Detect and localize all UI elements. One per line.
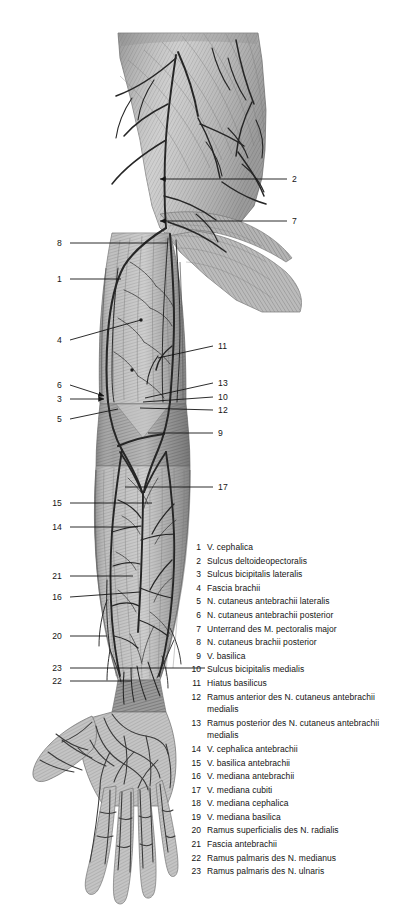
leader-label-16: 16 (52, 593, 62, 602)
legend-item-number: 9 (186, 650, 201, 663)
leader-label-21: 21 (52, 572, 62, 581)
legend-item-text: Fascia brachii (207, 582, 260, 595)
legend-item: 3Sulcus bicipitalis lateralis (186, 568, 396, 581)
legend-item-number: 14 (186, 743, 201, 756)
legend-item-number: 20 (186, 824, 201, 837)
legend-item: 8N. cutaneus brachii posterior (186, 636, 396, 649)
legend-item-text: V. basilica (207, 650, 246, 663)
legend-item: 23Ramus palmaris des N. ulnaris (186, 865, 396, 878)
leader-label-3: 3 (57, 395, 62, 404)
leader-label-20: 20 (52, 632, 62, 641)
legend-item-text: V. mediana cubiti (207, 784, 272, 797)
legend-item-text: Ramus palmaris des N. ulnaris (207, 865, 324, 878)
leader-label-7: 7 (292, 217, 297, 226)
legend-item-text: V. mediana antebrachii (207, 770, 294, 783)
legend-item-number: 16 (186, 770, 201, 783)
legend-item-text: N. cutaneus antebrachii posterior (207, 609, 333, 622)
legend-item: 9V. basilica (186, 650, 396, 663)
legend-item-number: 11 (186, 677, 201, 690)
legend-item-text: Ramus anterior des N. cutaneus antebrach… (207, 691, 396, 716)
leader-line-6 (70, 385, 104, 396)
legend-item-number: 18 (186, 797, 201, 810)
legend-item: 10Sulcus bicipitalis medialis (186, 663, 396, 676)
legend-item: 7Unterrand des M. pectoralis major (186, 623, 396, 636)
legend-item: 14V. cephalica antebrachii (186, 743, 396, 756)
leader-label-11: 11 (218, 342, 227, 351)
legend-item-text: Ramus palmaris des N. medianus (207, 852, 336, 865)
legend-item-number: 19 (186, 811, 201, 824)
legend-item-text: Ramus posterior des N. cutaneus antebrac… (207, 717, 396, 742)
leader-label-17: 17 (218, 483, 228, 492)
legend-item: 1V. cephalica (186, 541, 396, 554)
legend-item-text: Sulcus bicipitalis lateralis (207, 568, 302, 581)
legend-item-text: Fascia antebrachii (207, 838, 277, 851)
leader-label-14: 14 (52, 523, 62, 532)
leader-label-22: 22 (52, 677, 62, 686)
legend-item-number: 1 (186, 541, 201, 554)
legend-item: 20Ramus superficialis des N. radialis (186, 824, 396, 837)
legend-item-text: Ramus superficialis des N. radialis (207, 824, 339, 837)
legend-item-number: 2 (186, 555, 201, 568)
leader-label-4: 4 (57, 336, 62, 345)
legend-item-number: 22 (186, 852, 201, 865)
legend-item-text: Unterrand des M. pectoralis major (207, 623, 337, 636)
legend-item-number: 3 (186, 568, 201, 581)
legend-item-text: V. cephalica antebrachii (207, 743, 298, 756)
legend-item-text: N. cutaneus antebrachii lateralis (207, 595, 330, 608)
leader-label-12: 12 (218, 406, 228, 415)
legend-item: 12Ramus anterior des N. cutaneus antebra… (186, 691, 396, 716)
legend-item: 21Fascia antebrachii (186, 838, 396, 851)
leader-label-2: 2 (292, 175, 297, 184)
legend-item-text: Sulcus bicipitalis medialis (207, 663, 304, 676)
leader-label-10: 10 (218, 393, 228, 402)
leader-label-8: 8 (57, 239, 62, 248)
legend-item-number: 10 (186, 663, 201, 676)
legend-item: 11Hiatus basilicus (186, 677, 396, 690)
legend-item: 2Sulcus deltoideopectoralis (186, 555, 396, 568)
leader-label-1: 1 (57, 275, 62, 284)
legend-item: 6N. cutaneus antebrachii posterior (186, 609, 396, 622)
legend-item: 15V. basilica antebrachii (186, 757, 396, 770)
legend-item: 17V. mediana cubiti (186, 784, 396, 797)
legend-item: 5N. cutaneus antebrachii lateralis (186, 595, 396, 608)
leader-label-23: 23 (52, 664, 62, 673)
legend-item-number: 8 (186, 636, 201, 649)
legend-item-text: V. cephalica (207, 541, 253, 554)
legend-item-text: V. mediana basilica (207, 811, 281, 824)
legend-item-text: Sulcus deltoideopectoralis (207, 555, 307, 568)
legend-item: 22Ramus palmaris des N. medianus (186, 852, 396, 865)
leader-label-6: 6 (57, 381, 62, 390)
legend-item-number: 7 (186, 623, 201, 636)
legend-item-number: 15 (186, 757, 201, 770)
legend-item-number: 23 (186, 865, 201, 878)
legend-list: 1V. cephalica2Sulcus deltoideopectoralis… (186, 541, 396, 879)
hand-region (33, 680, 178, 904)
legend-item: 16V. mediana antebrachii (186, 770, 396, 783)
legend-item-text: N. cutaneus brachii posterior (207, 636, 317, 649)
leader-label-5: 5 (57, 415, 62, 424)
legend-item: 13Ramus posterior des N. cutaneus antebr… (186, 717, 396, 742)
legend-item-number: 4 (186, 582, 201, 595)
legend-item-number: 13 (186, 717, 201, 730)
legend-item-number: 12 (186, 691, 201, 704)
legend-item: 4Fascia brachii (186, 582, 396, 595)
legend-item-number: 5 (186, 595, 201, 608)
legend-item-number: 17 (186, 784, 201, 797)
legend-item-text: V. mediana cephalica (207, 797, 289, 810)
legend-item-number: 6 (186, 609, 201, 622)
legend-item-number: 21 (186, 838, 201, 851)
legend-item: 19V. mediana basilica (186, 811, 396, 824)
legend-item: 18V. mediana cephalica (186, 797, 396, 810)
legend-item-text: V. basilica antebrachii (207, 757, 290, 770)
leader-label-15: 15 (52, 499, 62, 508)
leader-label-13: 13 (218, 379, 228, 388)
leader-label-9: 9 (218, 429, 223, 438)
legend-item-text: Hiatus basilicus (207, 677, 267, 690)
